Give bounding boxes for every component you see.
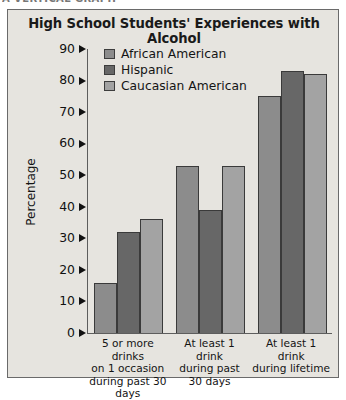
tick-arrow-icon <box>79 203 86 211</box>
bar[interactable] <box>258 96 281 333</box>
tick-arrow-icon <box>79 108 86 116</box>
tick-arrow-icon <box>79 234 86 242</box>
bar[interactable] <box>222 166 245 333</box>
x-axis-label: At least 1 drinkduring past30 days <box>169 337 251 400</box>
bar-group <box>251 49 333 333</box>
y-axis-tick: 20 <box>46 263 86 277</box>
y-tick-value: 20 <box>59 264 75 276</box>
y-axis-tick: 90 <box>46 42 86 56</box>
y-tick-value: 40 <box>59 201 75 213</box>
y-tick-value: 10 <box>59 295 75 307</box>
tick-arrow-icon <box>79 140 86 148</box>
y-tick-value: 90 <box>59 43 75 55</box>
y-tick-value: 50 <box>59 169 75 181</box>
bar[interactable] <box>140 219 163 333</box>
tick-arrow-icon <box>79 329 86 337</box>
tick-arrow-icon <box>79 77 86 85</box>
chart-figure: High School Students' Experiences with A… <box>7 9 339 378</box>
top-caption-strip: A VERTICAL GRAPH <box>0 0 346 9</box>
y-axis-tick: 0 <box>46 326 86 340</box>
bar-groups <box>88 49 333 333</box>
tick-arrow-icon <box>79 171 86 179</box>
y-axis-tick: 30 <box>46 231 86 245</box>
x-axis-labels: 5 or more drinkson 1 occasionduring past… <box>87 337 332 400</box>
bar[interactable] <box>304 74 327 333</box>
bar-group <box>170 49 252 333</box>
y-axis-tick: 10 <box>46 294 86 308</box>
tick-arrow-icon <box>79 297 86 305</box>
bar[interactable] <box>199 210 222 333</box>
y-tick-value: 0 <box>67 327 75 339</box>
tick-arrow-icon <box>79 266 86 274</box>
y-axis-tick: 80 <box>46 74 86 88</box>
plot-area <box>87 49 332 334</box>
bar[interactable] <box>94 283 117 333</box>
y-axis-title: Percentage <box>24 147 38 237</box>
y-axis-tick: 60 <box>46 137 86 151</box>
top-caption-text: A VERTICAL GRAPH <box>2 0 116 4</box>
y-axis-tick: 70 <box>46 105 86 119</box>
bar-group <box>88 49 170 333</box>
bar[interactable] <box>281 71 304 333</box>
y-axis-tick: 40 <box>46 200 86 214</box>
tick-arrow-icon <box>79 45 86 53</box>
x-axis-label: At least 1 drinkduring lifetime <box>250 337 332 400</box>
y-tick-value: 70 <box>59 106 75 118</box>
y-tick-value: 60 <box>59 137 75 149</box>
y-tick-value: 80 <box>59 74 75 86</box>
bar[interactable] <box>117 232 140 333</box>
y-axis-ticks: 9080706050403020100 <box>46 10 86 379</box>
y-axis-tick: 50 <box>46 168 86 182</box>
y-tick-value: 30 <box>59 232 75 244</box>
bar[interactable] <box>176 166 199 333</box>
x-axis-label: 5 or more drinkson 1 occasionduring past… <box>87 337 169 400</box>
